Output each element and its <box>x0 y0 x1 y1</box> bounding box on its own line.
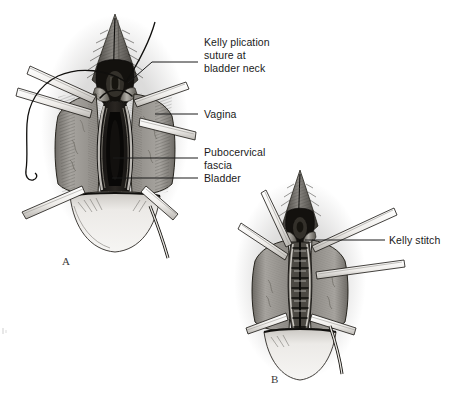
scan-edge-artifact <box>3 328 6 334</box>
panel-b-letter: B <box>271 373 278 385</box>
cervix-bulge <box>70 192 160 253</box>
label-pubocervical-fascia: Pubocervical fascia <box>204 146 265 172</box>
right-vaginal-flap <box>128 90 175 200</box>
label-kelly-plication-suture: Kelly plication suture at bladder neck <box>204 36 270 75</box>
label-vagina: Vagina <box>204 108 237 121</box>
panel-b-illustration <box>234 170 405 380</box>
kelly-stitch-suture-line <box>288 240 312 332</box>
panel-a-letter: A <box>62 255 70 267</box>
surgical-illustration-figure: Kelly plication suture at bladder neck V… <box>0 0 463 398</box>
label-kelly-stitch: Kelly stitch <box>389 234 440 247</box>
panel-a-illustration <box>16 14 196 258</box>
label-bladder: Bladder <box>204 172 241 185</box>
